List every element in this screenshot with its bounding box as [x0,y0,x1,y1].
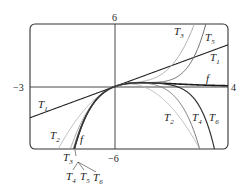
curve-t6 [30,83,228,189]
curve-label: T5 [205,31,215,46]
curve-t5 [30,0,228,189]
curve-label: T2 [164,111,174,126]
curves-group [30,0,228,189]
plot-frame [30,24,228,149]
curve-label: T3 [63,151,73,166]
curve-label: T4 [192,111,202,126]
curve-t2 [30,84,228,189]
taylor-polynomial-chart: 6 −6 −3 4 T3T5T1fT1T2T4T6T2fT3T4T5T6 [0,0,249,189]
curve-label: T4 [66,170,76,185]
ymax-label: 6 [112,12,117,23]
curve-label: T1 [38,98,48,113]
curve-t3 [30,0,228,189]
curve-t1 [30,45,228,118]
curve-label: T6 [93,171,103,186]
ymin-label: −6 [108,153,119,164]
curve-f [30,83,228,189]
curve-label: T2 [50,129,60,144]
xmax-label: 4 [231,82,236,93]
curve-label: T3 [174,25,184,40]
curve-label: T1 [210,51,220,66]
label-leaders [73,150,96,172]
xmin-label: −3 [13,82,24,93]
curve-label: T5 [80,170,90,185]
curve-t4 [30,83,228,189]
curve-label: f [80,133,85,145]
curve-label: T6 [209,111,219,126]
curve-label: f [206,72,211,84]
